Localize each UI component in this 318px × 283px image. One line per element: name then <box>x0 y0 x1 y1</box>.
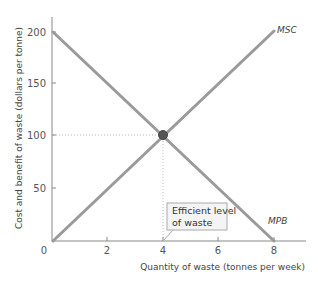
y-tick-label-50: 50 <box>33 183 46 194</box>
callout-line2: of waste <box>172 217 212 228</box>
x-tick-label-2: 2 <box>104 245 110 256</box>
x-axis-title: Quantity of waste (tonnes per week) <box>140 262 305 272</box>
x-tick-label-4: 4 <box>160 245 166 256</box>
callout-line1: Efficient level <box>172 205 236 216</box>
y-tick-label-150: 150 <box>27 78 46 89</box>
mpb-label: MPB <box>268 216 287 226</box>
y-tick-label-100: 100 <box>27 130 46 141</box>
y-axis-title: Cost and benefit of waste (dollars per t… <box>14 27 24 229</box>
msc-label: MSC <box>277 25 297 35</box>
x-tick-label-0: 0 <box>41 245 47 256</box>
x-tick-label-8: 8 <box>271 245 277 256</box>
chart: 200 150 100 50 0 2 4 6 8 Quantity of was… <box>0 0 318 283</box>
y-tick-label-200: 200 <box>27 27 46 38</box>
callout-pointer <box>163 229 174 241</box>
x-tick-label-6: 6 <box>215 245 221 256</box>
equilibrium-point <box>159 131 168 140</box>
